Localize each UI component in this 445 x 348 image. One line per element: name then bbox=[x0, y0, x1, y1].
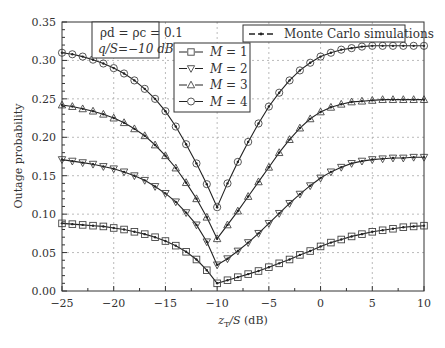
y-tick-label: 0.30 bbox=[32, 54, 57, 67]
legend-label: M = 4 bbox=[209, 95, 248, 109]
outage-probability-chart: 0.000.050.100.150.200.250.300.35 −25−20−… bbox=[0, 0, 445, 348]
x-tick-label: 0 bbox=[317, 297, 324, 310]
parameter-annotation: ρd = ρc = 0.1 q/S=−10 dB bbox=[92, 22, 183, 58]
simulation-legend: Monte Carlo simulations bbox=[243, 25, 434, 42]
square-marker-icon bbox=[187, 48, 195, 56]
legend-label: M = 3 bbox=[209, 78, 248, 92]
legend-label: M = 1 bbox=[209, 45, 248, 59]
y-tick-label: 0.05 bbox=[32, 247, 57, 260]
y-tick-label: 0.20 bbox=[32, 131, 57, 144]
annotation-line2: q/S=−10 dB bbox=[98, 42, 174, 56]
y-tick-label: 0.35 bbox=[32, 16, 57, 29]
x-tick-label: 10 bbox=[417, 297, 431, 310]
series-m2 bbox=[58, 154, 427, 268]
x-tick-label: −5 bbox=[261, 297, 277, 310]
y-axis-title: Outage probability bbox=[12, 103, 25, 209]
triangle-down-marker-icon bbox=[187, 65, 195, 73]
simulation-legend-label: Monte Carlo simulations bbox=[284, 27, 434, 41]
x-tick-labels: −25−20−15−10−50510 bbox=[50, 297, 431, 310]
y-tick-label: 0.25 bbox=[32, 93, 57, 106]
legend-label: M = 2 bbox=[209, 62, 248, 76]
circle-marker-icon bbox=[187, 98, 195, 106]
x-tick-label: −20 bbox=[102, 297, 125, 310]
x-tick-label: −15 bbox=[154, 297, 177, 310]
triangle-up-marker-icon bbox=[187, 81, 195, 89]
x-tick-label: −25 bbox=[50, 297, 73, 310]
x-axis-title: zT/S (dB) bbox=[217, 314, 268, 329]
svg-text:zT/S (dB): zT/S (dB) bbox=[217, 314, 268, 329]
series-legend: M = 1M = 2M = 3M = 4 bbox=[174, 43, 250, 112]
dot-marker-icon bbox=[260, 33, 263, 36]
y-tick-labels: 0.000.050.100.150.200.250.300.35 bbox=[32, 16, 57, 298]
x-tick-label: −10 bbox=[206, 297, 229, 310]
y-tick-label: 0.15 bbox=[32, 170, 57, 183]
x-tick-label: 5 bbox=[369, 297, 376, 310]
annotation-line1: ρd = ρc = 0.1 bbox=[100, 26, 183, 40]
y-tick-label: 0.10 bbox=[32, 208, 57, 221]
